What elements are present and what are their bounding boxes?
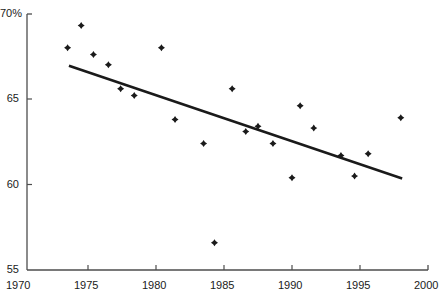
axis-lines xyxy=(27,14,428,270)
x-tick-label: 1985 xyxy=(210,279,234,291)
data-point-marker xyxy=(158,44,165,51)
x-tick-label: 2000 xyxy=(414,279,438,291)
y-tick-label: 70% xyxy=(0,7,19,19)
x-tick-label: 1975 xyxy=(74,279,98,291)
data-point-marker xyxy=(90,51,97,58)
data-point-marker xyxy=(229,85,236,92)
axis-ticks xyxy=(27,99,360,270)
data-point-marker xyxy=(117,85,124,92)
data-point-marker xyxy=(397,114,404,121)
data-point-marker xyxy=(105,61,112,68)
scatter-chart: 197019751980198519901995200055606570% xyxy=(0,0,445,306)
x-tick-label: 1970 xyxy=(6,279,30,291)
y-tick-label: 55 xyxy=(0,263,19,275)
data-point-marker xyxy=(242,128,249,135)
x-tick-label: 1980 xyxy=(142,279,166,291)
x-tick-label: 1990 xyxy=(278,279,302,291)
y-tick-label: 65 xyxy=(0,92,19,104)
data-point-marker xyxy=(351,172,358,179)
data-point-marker xyxy=(200,140,207,147)
data-point-marker xyxy=(297,102,304,109)
x-tick-label: 1995 xyxy=(346,279,370,291)
data-point-marker xyxy=(269,140,276,147)
trend-line-segment xyxy=(69,66,402,179)
plot-area xyxy=(0,0,445,306)
data-point-marker xyxy=(64,44,71,51)
data-point-marker xyxy=(211,239,218,246)
y-tick-label: 60 xyxy=(0,178,19,190)
data-points xyxy=(64,22,404,246)
trend-line xyxy=(69,66,402,179)
data-point-marker xyxy=(131,92,138,99)
data-point-marker xyxy=(172,116,179,123)
data-point-marker xyxy=(310,125,317,132)
data-point-marker xyxy=(78,22,85,29)
data-point-marker xyxy=(365,150,372,157)
data-point-marker xyxy=(289,174,296,181)
